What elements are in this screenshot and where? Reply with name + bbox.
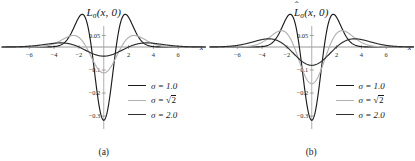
svg-text:6: 6	[177, 51, 180, 58]
legend-label-sigma-sqrt2: σ = √2	[151, 95, 176, 105]
svg-text:0.05: 0.05	[89, 32, 100, 39]
svg-text:4: 4	[359, 51, 363, 58]
legend-swatch-sigma-2	[128, 114, 146, 115]
panel-a-subcaption: (a)	[0, 147, 208, 157]
radical-icon: √2	[374, 95, 384, 105]
radical-icon: √2	[166, 95, 176, 105]
svg-text:−0.2: −0.2	[296, 89, 308, 96]
legend-label-sigma-1: σ = 1.0	[151, 81, 177, 91]
svg-text:−6: −6	[26, 51, 33, 58]
svg-text:2: 2	[127, 51, 130, 58]
panel-b-legend: σ = 1.0 σ = √2 σ = 2.0	[336, 80, 385, 120]
legend-item-sigma-2[interactable]: σ = 2.0	[128, 109, 177, 120]
svg-text:−2: −2	[76, 51, 83, 58]
panel-b-subcaption: (b)	[208, 147, 415, 157]
panel-a-legend: σ = 1.0 σ = √2 σ = 2.0	[128, 80, 177, 120]
legend-item-sigma-1[interactable]: σ = 1.0	[128, 80, 177, 91]
legend-label-sigma-2: σ = 2.0	[151, 110, 177, 120]
svg-text:6: 6	[384, 51, 387, 58]
svg-text:0.05: 0.05	[297, 32, 308, 39]
legend-swatch-sigma-sqrt2	[336, 100, 354, 101]
svg-text:−0.2: −0.2	[89, 89, 101, 96]
legend-item-sigma-2[interactable]: σ = 2.0	[336, 109, 385, 120]
svg-text:−2: −2	[283, 51, 290, 58]
legend-item-sigma-1[interactable]: σ = 1.0	[336, 80, 385, 91]
legend-item-sigma-sqrt2[interactable]: σ = √2	[336, 95, 385, 106]
panel-a: Lσ(x, 0) −6−4−2246x0.05−0.1−0.2−0.3 σ = …	[0, 0, 208, 161]
svg-text:−0.3: −0.3	[296, 112, 308, 119]
svg-text:2: 2	[334, 51, 337, 58]
figure-two-panel-plot: Lσ(x, 0) −6−4−2246x0.05−0.1−0.2−0.3 σ = …	[0, 0, 415, 161]
legend-label-sigma-sqrt2: σ = √2	[359, 95, 384, 105]
svg-text:−4: −4	[258, 51, 266, 58]
svg-text:−6: −6	[233, 51, 240, 58]
svg-text:4: 4	[152, 51, 156, 58]
svg-text:−0.3: −0.3	[89, 112, 101, 119]
svg-text:−4: −4	[51, 51, 59, 58]
legend-label-sigma-1: σ = 1.0	[359, 81, 385, 91]
legend-swatch-sigma-1	[336, 85, 354, 86]
legend-swatch-sigma-2	[336, 114, 354, 115]
legend-swatch-sigma-1	[128, 85, 146, 86]
legend-item-sigma-sqrt2[interactable]: σ = √2	[128, 95, 177, 106]
legend-label-sigma-2: σ = 2.0	[359, 110, 385, 120]
panel-b: Lσ(x, 0) −6−4−2246x0.05−0.1−0.2−0.3 σ = …	[208, 0, 415, 161]
legend-swatch-sigma-sqrt2	[128, 100, 146, 101]
